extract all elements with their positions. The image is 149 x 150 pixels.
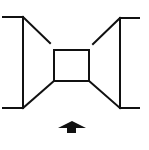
right-lower-diagonal: [89, 81, 120, 108]
right-panel: [89, 18, 139, 108]
center-square: [54, 50, 89, 81]
up-arrow-icon: [58, 121, 86, 133]
diagram-canvas: Symmetric bow-tie/hourglass room perspec…: [0, 0, 149, 150]
left-upper-diagonal: [23, 17, 50, 43]
left-lower-diagonal: [23, 81, 54, 108]
left-panel: [3, 17, 54, 108]
right-upper-diagonal: [93, 18, 120, 44]
diagram-svg: [0, 0, 149, 150]
